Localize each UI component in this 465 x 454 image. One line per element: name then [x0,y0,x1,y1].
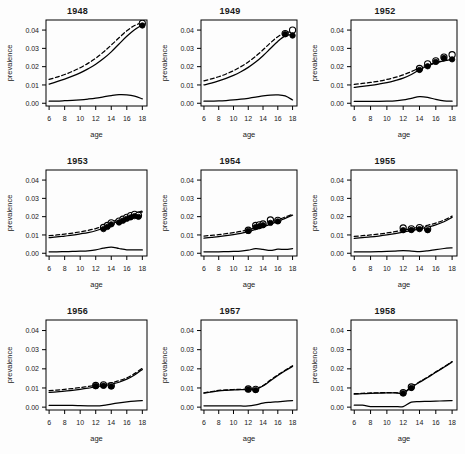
y-tick-label: 0.04 [180,27,194,34]
y-tick-label: 0.03 [180,195,194,202]
series-density-lower [354,248,452,252]
data-point-filled [425,64,430,69]
data-point-filled [253,387,258,392]
y-tick-label: 0.01 [25,385,39,392]
x-tick-label: 12 [244,115,252,122]
x-tick-label: 6 [352,115,356,122]
y-tick-label: 0.02 [180,213,194,220]
x-tick-label: 12 [399,115,407,122]
x-tick-label: 16 [274,419,282,426]
series-density-lower [354,401,452,407]
x-tick-label: 18 [448,115,456,122]
x-tick-label: 18 [289,419,297,426]
x-tick-label: 14 [416,265,424,272]
series-density-lower [204,95,293,101]
y-tick-label: 0.01 [180,232,194,239]
panel-1948: 19480.000.010.020.030.04681012141618agep… [0,0,155,150]
x-tick-label: 8 [63,115,67,122]
y-tick-label: 0.03 [330,346,344,353]
y-tick-label: 0.03 [180,45,194,52]
data-point-filled [101,383,106,388]
x-tick-label: 16 [123,419,131,426]
y-tick-label: 0.03 [330,195,344,202]
x-tick-label: 18 [138,419,146,426]
data-point-open [289,27,295,33]
y-tick-label: 0.02 [330,63,344,70]
plot-area: 0.000.010.020.030.04681012141618agepreva… [305,150,465,300]
panel-1954: 19540.000.010.020.030.04681012141618agep… [155,150,305,300]
x-tick-label: 12 [399,419,407,426]
y-tick-label: 0.02 [180,63,194,70]
x-tick-label: 10 [76,265,84,272]
y-tick-label: 0.04 [330,27,344,34]
x-tick-label: 12 [92,419,100,426]
series-fitted-dashed [204,32,293,81]
x-tick-label: 16 [123,265,131,272]
plot-area: 0.000.010.020.030.04681012141618agepreva… [0,150,155,300]
x-axis-title: age [90,130,103,139]
series-density-lower [354,97,452,102]
x-tick-label: 12 [244,419,252,426]
y-tick-label: 0.01 [25,82,39,89]
data-point-filled [441,55,446,60]
x-tick-label: 8 [217,265,221,272]
series-fitted-dashed [354,362,452,394]
y-tick-label: 0.01 [180,385,194,392]
x-tick-label: 18 [138,265,146,272]
x-tick-label: 14 [259,265,267,272]
x-tick-label: 12 [92,115,100,122]
data-point-filled [409,227,414,232]
y-tick-label: 0.00 [180,250,194,257]
series-density-lower [49,401,142,406]
x-tick-label: 18 [289,265,297,272]
x-tick-label: 14 [107,265,115,272]
x-tick-label: 10 [383,265,391,272]
data-point-filled [409,385,414,390]
x-axis-title: age [243,434,256,443]
y-tick-label: 0.04 [330,177,344,184]
y-tick-label: 0.00 [330,404,344,411]
y-tick-label: 0.02 [330,213,344,220]
plot-area: 0.000.010.020.030.04681012141618agepreva… [305,0,465,150]
x-tick-label: 6 [47,265,51,272]
x-tick-label: 16 [432,419,440,426]
x-tick-label: 12 [92,265,100,272]
y-tick-label: 0.02 [330,365,344,372]
y-tick-label: 0.00 [25,404,39,411]
x-tick-label: 8 [63,419,67,426]
y-tick-label: 0.00 [180,404,194,411]
plot-area: 0.000.010.020.030.04681012141618agepreva… [155,300,305,454]
panel-1949: 19490.000.010.020.030.04681012141618agep… [155,0,305,150]
data-point-filled [425,228,430,233]
y-tick-label: 0.00 [180,100,194,107]
data-point-filled [449,57,454,62]
y-tick-label: 0.03 [25,195,39,202]
data-point-filled [417,226,422,231]
panel-1953: 19530.000.010.020.030.04681012141618agep… [0,150,155,300]
x-tick-label: 10 [230,419,238,426]
data-point-filled [433,59,438,64]
plot-area: 0.000.010.020.030.04681012141618agepreva… [0,0,155,150]
y-tick-label: 0.01 [330,232,344,239]
x-tick-label: 18 [138,115,146,122]
x-axis-title: age [90,434,103,443]
x-tick-label: 10 [383,419,391,426]
y-tick-label: 0.02 [25,63,39,70]
y-axis-title: prevalence [160,347,169,384]
x-axis-title: age [398,434,411,443]
y-tick-label: 0.04 [25,27,39,34]
data-point-filled [290,33,295,38]
x-tick-label: 10 [383,115,391,122]
x-tick-label: 12 [244,265,252,272]
x-axis-title: age [243,280,256,289]
y-axis-title: prevalence [5,45,14,82]
y-tick-label: 0.03 [180,346,194,353]
data-point-filled [260,223,265,228]
x-tick-label: 6 [352,419,356,426]
y-tick-label: 0.00 [330,250,344,257]
y-tick-label: 0.00 [25,250,39,257]
x-tick-label: 14 [259,115,267,122]
x-tick-label: 14 [259,419,267,426]
y-tick-label: 0.02 [25,365,39,372]
y-axis-title: prevalence [160,195,169,232]
